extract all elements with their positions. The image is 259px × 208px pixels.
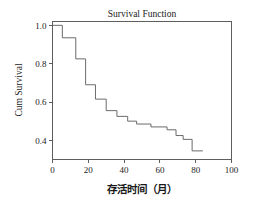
x-tick-label: 80 [191, 165, 201, 175]
x-tick-label: 60 [155, 165, 165, 175]
y-tick-label: 0.6 [35, 97, 47, 107]
x-tick-label: 0 [50, 165, 55, 175]
chart-canvas: Survival Function 0.40.60.81.0 020406080… [0, 0, 259, 208]
x-tick-label: 40 [120, 165, 130, 175]
y-tick-label: 1.0 [35, 21, 47, 31]
x-tick-label: 20 [84, 165, 94, 175]
y-axis-title: Cum Survival [14, 63, 24, 116]
survival-function-figure: Survival Function 0.40.60.81.0 020406080… [0, 0, 259, 208]
x-axis-tick-group: 020406080100 [50, 160, 239, 175]
y-tick-label: 0.4 [35, 136, 47, 146]
y-axis-tick-group: 0.40.60.81.0 [35, 21, 52, 146]
y-tick-label: 0.8 [35, 59, 47, 69]
plot-frame [53, 22, 232, 160]
x-axis-title: 存活时间（月） [107, 183, 177, 195]
x-tick-label: 100 [225, 165, 239, 175]
chart-title: Survival Function [108, 9, 177, 19]
survival-step-curve [53, 25, 203, 151]
